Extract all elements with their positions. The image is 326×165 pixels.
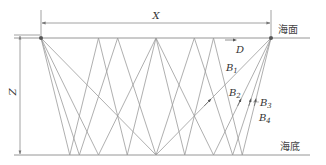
x-dimension: X xyxy=(41,10,271,36)
ray-label-b4: B4 xyxy=(258,112,271,125)
source-point xyxy=(39,36,43,40)
sea-bottom-label: 海底 xyxy=(280,140,300,152)
ray-arrow-b3 xyxy=(249,100,251,106)
ray-label-b1: B1 xyxy=(225,62,238,75)
ray-label-b2: B2 xyxy=(228,87,241,100)
ray-arrow-b4 xyxy=(254,100,255,106)
sea-surface-label: 海面 xyxy=(278,23,298,35)
z-dimension: Z xyxy=(7,35,40,154)
ray-arrow-b2 xyxy=(238,100,241,106)
z-label: Z xyxy=(7,88,18,97)
ray-label-b3: B3 xyxy=(259,97,272,110)
ray-arrow-b1 xyxy=(204,100,210,106)
multipath-diagram: X Z 海面 海底 D B1 B2 B3 B4 xyxy=(0,0,326,165)
receiver-point xyxy=(269,36,273,40)
x-label: X xyxy=(151,10,160,21)
ray-label-d: D xyxy=(235,44,244,55)
